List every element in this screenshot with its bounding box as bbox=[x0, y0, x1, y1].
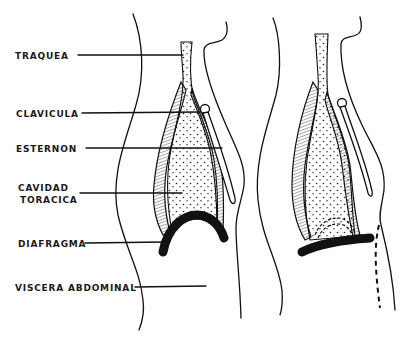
label-clavicula: CLAVICULA bbox=[16, 109, 79, 119]
label-viscera: VISCERA ABDOMINAL bbox=[15, 283, 137, 293]
label-diafragma: DIAFRAGMA bbox=[18, 239, 86, 249]
right-figure bbox=[257, 17, 395, 315]
label-cavidad-line2: TORACICA bbox=[20, 195, 78, 205]
respiration-diagram: TRAQUEA CLAVICULA ESTERNON CAVIDAD TORAC… bbox=[0, 0, 411, 347]
label-cavidad-line1: CAVIDAD bbox=[18, 183, 69, 193]
leader-viscera bbox=[135, 286, 206, 287]
label-esternon: ESTERNON bbox=[16, 144, 77, 154]
label-traquea: TRAQUEA bbox=[15, 51, 69, 61]
abdomen-expanded-dashed bbox=[376, 225, 380, 308]
leader-diafragma bbox=[85, 242, 165, 243]
back-contour bbox=[257, 18, 282, 315]
thoracic-cavity bbox=[305, 34, 355, 240]
labels: TRAQUEA CLAVICULA ESTERNON CAVIDAD TORAC… bbox=[15, 51, 137, 293]
